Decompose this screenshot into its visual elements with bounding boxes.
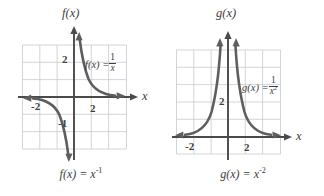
equation-f-lhs: f(x) =	[85, 59, 109, 70]
caption-g-lhs: g(x) = x	[220, 167, 259, 181]
axis-label-f-of-x: f(x)	[62, 7, 79, 20]
caption-g: g(x) = x-2	[162, 168, 324, 180]
tick-y-neg1-left: -1	[58, 118, 67, 129]
caption-g-exponent: -2	[259, 166, 266, 175]
equation-g-lhs: g(x) =	[242, 82, 269, 93]
panel-f-of-x: f(x) x 2 2 -2 -1 f(x) =1x f(x) = x-1	[0, 0, 162, 196]
caption-f: f(x) = x-1	[0, 168, 162, 180]
equation-f-inline: f(x) =1x	[85, 55, 116, 76]
equation-g-fraction: 1x2	[269, 76, 278, 97]
tick-y-2-right: 2	[219, 96, 225, 107]
tick-x-neg2-right: -2	[185, 141, 194, 152]
curve-g-right-arrow-up	[233, 38, 240, 47]
equation-f-denominator: x	[109, 63, 116, 74]
axis-label-x-right: x	[296, 130, 302, 143]
caption-f-exponent: -1	[96, 166, 103, 175]
equation-f-fraction: 1x	[109, 53, 116, 74]
tick-x-neg2-left: -2	[31, 101, 40, 112]
equation-g-denominator: x2	[269, 86, 278, 97]
tick-y-2-left: 2	[62, 54, 68, 65]
equation-f-numerator: 1	[109, 53, 116, 63]
axis-label-x-left: x	[142, 90, 148, 103]
equation-g-denominator-exponent: 2	[274, 84, 277, 91]
curve-g-left	[185, 46, 221, 135]
panel-g-of-x: g(x) x 2 2 -2 g(x) =1x2 g(x) = x-2	[162, 0, 324, 196]
figure-container: f(x) x 2 2 -2 -1 f(x) =1x f(x) = x-1	[0, 0, 324, 196]
caption-f-lhs: f(x) = x	[60, 167, 96, 181]
tick-x-2-left: 2	[90, 103, 96, 114]
curve-f-positive-arrow	[117, 92, 125, 99]
axes-f	[18, 26, 138, 160]
curve-f-negative-arrow-down	[65, 153, 72, 162]
curve-g-left-arrow-up	[216, 38, 223, 47]
axis-label-g-of-x: g(x)	[216, 7, 236, 20]
equation-g-inline: g(x) =1x2	[242, 78, 278, 99]
tick-x-2-right: 2	[244, 142, 250, 153]
